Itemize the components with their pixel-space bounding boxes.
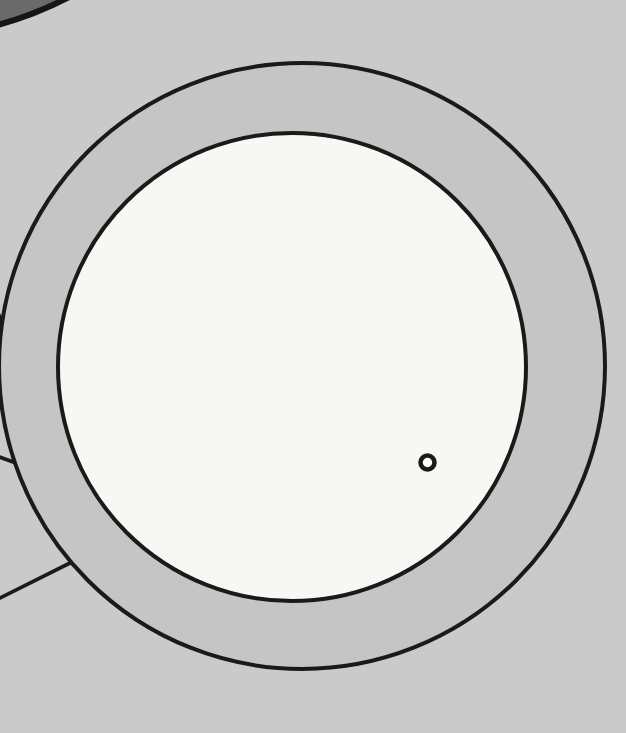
inner-disc-circle	[58, 133, 526, 601]
vector-illustration	[0, 0, 626, 733]
small-highlight-circle	[421, 456, 435, 470]
illustration-canvas	[0, 0, 626, 733]
